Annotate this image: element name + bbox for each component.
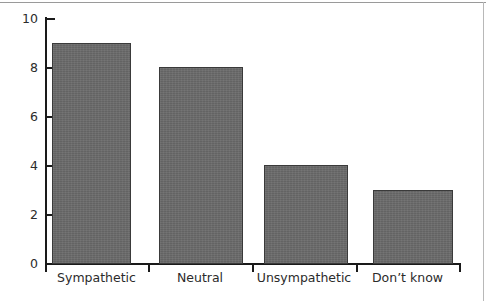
bar-unsympathetic — [264, 165, 348, 264]
y-axis-tick-label: 4 — [14, 160, 38, 173]
x-axis-label-sympathetic: Sympathetic — [45, 271, 148, 285]
y-axis-tick-label: 2 — [14, 209, 38, 222]
page-border-right — [483, 2, 484, 301]
page-border-top — [0, 2, 486, 3]
y-axis-tick-label: 10 — [14, 13, 38, 26]
bar-dont-know — [373, 190, 453, 264]
x-axis-tick — [459, 265, 461, 272]
x-axis-label-dont-know: Don’t know — [356, 271, 459, 285]
y-axis-tick — [47, 18, 55, 20]
x-axis-label-neutral: Neutral — [148, 271, 252, 285]
bar-neutral — [159, 67, 243, 264]
y-axis-line — [45, 17, 47, 265]
y-axis-tick-label: 0 — [14, 258, 38, 271]
y-axis-tick-label: 6 — [14, 111, 38, 124]
bar-chart: 0 2 4 6 8 10 Sympathetic Neutral Unsympa… — [0, 0, 486, 301]
x-axis-label-unsympathetic: Unsympathetic — [252, 271, 356, 285]
y-axis-tick-label: 8 — [14, 62, 38, 75]
bar-sympathetic — [52, 43, 131, 264]
